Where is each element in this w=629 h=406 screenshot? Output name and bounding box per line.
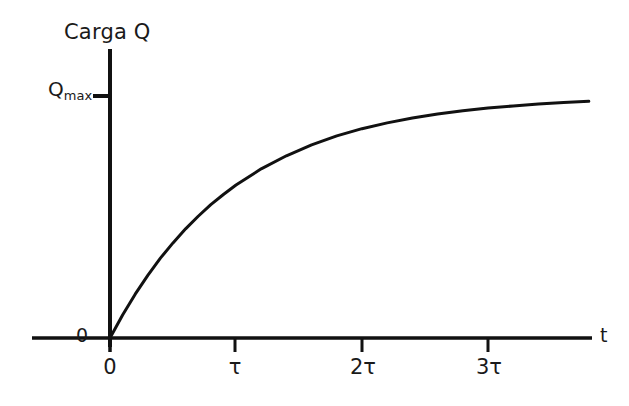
x-tick-label-tau: τ xyxy=(229,357,242,378)
y-axis-title: Carga Q xyxy=(64,22,151,43)
x-tick-label-0: 0 xyxy=(103,357,116,378)
chart-canvas xyxy=(0,0,629,406)
chart-figure: Carga Q Qmax 0 t 0 τ 2τ 3τ xyxy=(0,0,629,406)
x-tick-label-3tau: 3τ xyxy=(476,357,502,378)
chart-background xyxy=(0,0,629,406)
x-axis-title: t xyxy=(600,326,607,345)
y-axis-max-subscript: max xyxy=(64,88,92,103)
y-axis-max-base: Q xyxy=(48,77,64,101)
x-tick-label-2tau: 2τ xyxy=(350,357,376,378)
origin-label: 0 xyxy=(76,326,88,345)
y-axis-max-label: Qmax xyxy=(48,79,92,99)
